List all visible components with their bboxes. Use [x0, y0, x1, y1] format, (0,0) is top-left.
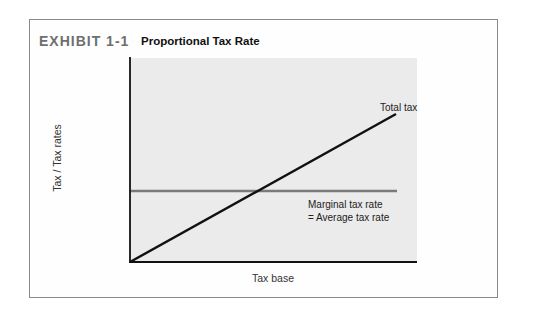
rate-line-label: Marginal tax rate = Average tax rate: [308, 198, 389, 224]
plot-background: [130, 58, 417, 262]
marginal-rate-label: Marginal tax rate: [308, 198, 389, 211]
x-axis-label: Tax base: [252, 272, 294, 284]
average-rate-label: = Average tax rate: [308, 211, 389, 224]
y-axis-label: Tax / Tax rates: [51, 124, 63, 192]
total-tax-label: Total tax: [380, 102, 417, 113]
chart-plot: [0, 0, 533, 318]
